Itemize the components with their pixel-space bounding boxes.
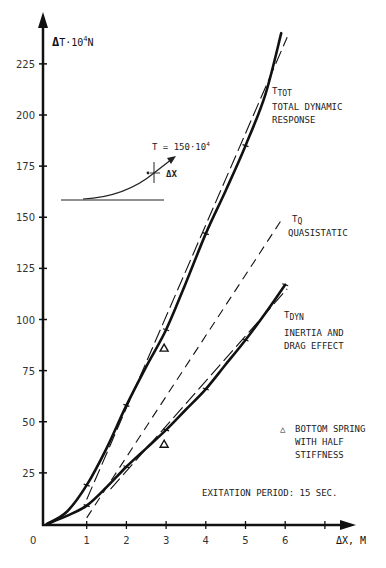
svg-text:INERTIA AND: INERTIA AND: [284, 328, 344, 338]
tdyn-label: TDYN INERTIA AND DRAG EFFECT: [284, 310, 344, 351]
svg-text:QUASISTATIC: QUASISTATIC: [288, 228, 348, 238]
x-tick-label: 4: [203, 535, 209, 546]
svg-text:TTOT: TTOT: [272, 86, 292, 98]
svg-text:TDYN: TDYN: [284, 310, 304, 322]
t-tot-total-dynamic-response-line: [47, 33, 281, 524]
inset-cable-curve: [83, 173, 154, 199]
t-q-quasistatic-line: [87, 217, 284, 518]
svg-text:DRAG EFFECT: DRAG EFFECT: [284, 341, 344, 351]
origin-label: 0: [30, 535, 36, 546]
y-axis-title: ΔT·104N: [52, 35, 94, 49]
svg-text:BOTTOM SPRING: BOTTOM SPRING: [295, 424, 365, 434]
y-tick-label: 125: [16, 263, 35, 274]
x-tick-label: 3: [163, 535, 169, 546]
y-tick-label: 150: [16, 212, 35, 223]
excitation-period-note: EXITATION PERIOD: 15 SEC.: [202, 488, 337, 498]
series: [47, 33, 288, 524]
x-tick-label: 5: [242, 535, 248, 546]
triangle-marker-icon: [160, 344, 168, 351]
chart: 255075100125150175200225 123456 ΔT·104N …: [0, 0, 386, 568]
t-tot-dashed-reference-line: [87, 37, 287, 499]
inset-arrow-icon: [167, 156, 176, 164]
y-tick-label: 100: [16, 315, 35, 326]
svg-text:RESPONSE: RESPONSE: [272, 115, 315, 125]
y-tick-label: 75: [22, 366, 35, 377]
x-axis-arrow-icon: [340, 520, 356, 530]
y-tick-label: 200: [16, 110, 35, 121]
x-axis-title: ΔX, M: [336, 535, 366, 546]
y-tick-label: 50: [22, 417, 35, 428]
svg-text:TOTAL DYNAMIC: TOTAL DYNAMIC: [272, 102, 342, 112]
x-tick-label: 6: [282, 535, 288, 546]
y-axis-arrow-icon: [38, 12, 48, 28]
svg-text:WITH HALF: WITH HALF: [295, 437, 344, 447]
triangle-marker-icon: [160, 440, 168, 447]
svg-text:STIFFNESS: STIFFNESS: [295, 450, 344, 460]
y-tick-label: 25: [22, 468, 35, 479]
y-tick-label: 175: [16, 161, 35, 172]
y-tick-label: 225: [16, 59, 35, 70]
triangle-marker-icon: △: [280, 424, 286, 434]
x-tick-label: 1: [84, 535, 90, 546]
svg-text:ΔX: ΔX: [166, 169, 177, 179]
axes: 255075100125150175200225 123456: [16, 12, 356, 546]
tq-label: TQ QUASISTATIC: [288, 214, 348, 238]
svg-text:T = 150·104: T = 150·104: [152, 140, 210, 152]
legend: △ BOTTOM SPRING WITH HALF STIFFNESS: [280, 424, 365, 460]
ttot-label: TTOT TOTAL DYNAMIC RESPONSE: [272, 86, 342, 125]
inset-point: [147, 172, 150, 175]
inset-diagram: T = 150·104 ΔX: [61, 140, 210, 200]
svg-text:TQ: TQ: [292, 214, 302, 226]
x-tick-label: 2: [123, 535, 129, 546]
